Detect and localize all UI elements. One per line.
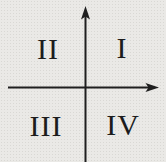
quadrant-diagram: II I III IV — [0, 0, 166, 162]
quadrant-ii-label: II — [37, 34, 59, 64]
quadrant-i-label: I — [117, 33, 128, 63]
quadrant-iii-label: III — [30, 111, 63, 141]
axes — [0, 0, 166, 162]
quadrant-iv-label: IV — [106, 110, 140, 140]
